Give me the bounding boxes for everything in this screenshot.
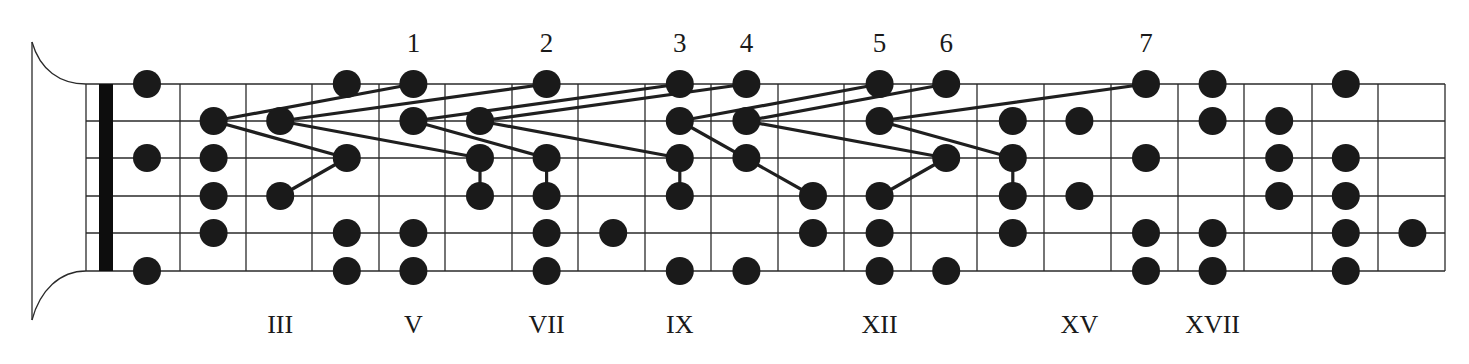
fret-marker-label: XVII	[1185, 310, 1240, 339]
scale-dot	[866, 182, 894, 210]
position-number: 3	[673, 28, 687, 58]
nut	[99, 84, 113, 271]
scale-dot	[999, 219, 1027, 247]
scale-dot	[200, 219, 228, 247]
scale-dot	[1332, 144, 1360, 172]
scale-dot	[932, 70, 960, 98]
scale-dot	[1398, 219, 1426, 247]
connector-line	[746, 121, 946, 158]
headstock-bottom-curve	[32, 271, 86, 320]
position-number: 5	[873, 28, 887, 58]
fret-markers: IIIVVIIIXXIIXVXVII	[267, 310, 1240, 339]
scale-dot	[133, 144, 161, 172]
scale-dot	[666, 70, 694, 98]
scale-dot	[1332, 257, 1360, 285]
connector-line	[280, 121, 480, 158]
scale-dot	[799, 182, 827, 210]
position-number: 1	[407, 28, 421, 58]
scale-dot	[866, 219, 894, 247]
scale-dot	[732, 257, 760, 285]
scale-dot	[999, 144, 1027, 172]
scale-dot	[666, 144, 694, 172]
scale-dot	[599, 219, 627, 247]
scale-dot	[533, 70, 561, 98]
headstock-top-curve	[32, 42, 86, 84]
scale-dot	[333, 257, 361, 285]
scale-dot	[533, 144, 561, 172]
scale-dot	[932, 144, 960, 172]
connector-line	[480, 121, 680, 158]
scale-dot	[1065, 107, 1093, 135]
scale-dot	[1199, 107, 1227, 135]
scale-dot	[200, 107, 228, 135]
scale-dot	[466, 182, 494, 210]
fret-marker-label: IX	[666, 310, 694, 339]
scale-dot	[1065, 182, 1093, 210]
headstock-outline	[32, 42, 86, 320]
scale-dot	[333, 144, 361, 172]
scale-dot	[732, 70, 760, 98]
scale-dot	[1132, 144, 1160, 172]
position-numbers: 1234567	[407, 28, 1153, 58]
position-number: 4	[740, 28, 754, 58]
scale-dot	[666, 182, 694, 210]
scale-dot	[1132, 257, 1160, 285]
scale-dot	[666, 257, 694, 285]
scale-dot	[266, 107, 294, 135]
scale-dot	[333, 219, 361, 247]
scale-dot	[200, 182, 228, 210]
scale-dot	[866, 257, 894, 285]
scale-dot	[1332, 70, 1360, 98]
fret-marker-label: V	[404, 310, 423, 339]
scale-dot	[999, 107, 1027, 135]
fret-marker-label: VII	[529, 310, 565, 339]
scale-dot	[1199, 219, 1227, 247]
scale-dot	[799, 219, 827, 247]
scale-dot	[266, 182, 294, 210]
scale-dot	[1199, 70, 1227, 98]
scale-dot	[1132, 219, 1160, 247]
scale-dot	[399, 219, 427, 247]
scale-dot	[1332, 182, 1360, 210]
scale-dot	[1265, 107, 1293, 135]
position-connectors	[214, 84, 1146, 196]
scale-dot	[732, 107, 760, 135]
scale-dot	[133, 70, 161, 98]
scale-dot	[399, 107, 427, 135]
fretboard-diagram: 1234567 IIIVVIIIXXIIXVXVII	[0, 0, 1469, 364]
scale-dot	[1132, 70, 1160, 98]
scale-dot	[932, 257, 960, 285]
scale-dot	[1199, 257, 1227, 285]
fret-marker-label: XV	[1061, 310, 1099, 339]
scale-dot	[1265, 144, 1293, 172]
position-number: 7	[1139, 28, 1153, 58]
scale-dot	[399, 70, 427, 98]
scale-dot	[133, 257, 161, 285]
scale-dot	[533, 257, 561, 285]
scale-dot	[333, 70, 361, 98]
scale-dot	[732, 144, 760, 172]
scale-dot	[466, 144, 494, 172]
position-number: 6	[939, 28, 953, 58]
scale-dot	[666, 107, 694, 135]
fret-marker-label: XII	[862, 310, 898, 339]
scale-dot	[533, 219, 561, 247]
scale-dot	[533, 182, 561, 210]
scale-dot	[399, 257, 427, 285]
scale-dot	[866, 107, 894, 135]
scale-dot	[866, 70, 894, 98]
fret-marker-label: III	[267, 310, 293, 339]
position-number: 2	[540, 28, 554, 58]
scale-dot	[200, 144, 228, 172]
scale-dot	[999, 182, 1027, 210]
scale-dot	[466, 107, 494, 135]
scale-dot	[1332, 219, 1360, 247]
scale-dot	[1265, 182, 1293, 210]
